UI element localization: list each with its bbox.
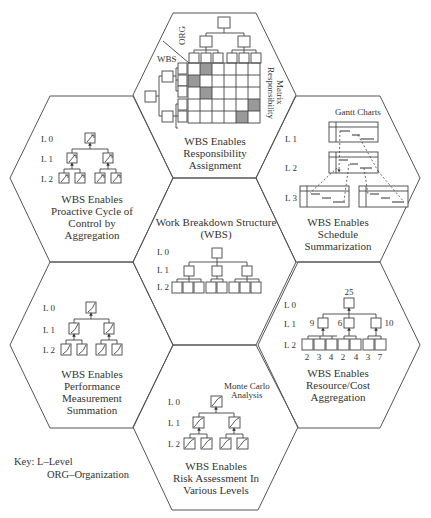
bottom-title-line-2: Risk Assessment In: [173, 472, 260, 484]
risk-tree: L 0 L 1 L 2: [168, 396, 248, 449]
responsibility-label: Responsibility: [266, 67, 276, 120]
level-label: L 1: [43, 325, 55, 335]
level-label: L 1: [284, 319, 296, 329]
level-label: L 0: [41, 134, 53, 144]
l1-value: 10: [385, 318, 395, 328]
left-bottom-title-line-2: Performance: [64, 380, 120, 392]
resource-cost-tree: L 0 L 1 L 2 25 9 6 10 2 3 4 2 4 3 7: [284, 287, 394, 362]
left-top-title-line-3: Control by: [68, 217, 116, 229]
matrix-grid: [188, 63, 260, 123]
right-top-title-line-3: Summarization: [304, 240, 372, 252]
bottom-title-line-1: WBS Enables: [185, 460, 246, 472]
level-label: L 0: [157, 247, 169, 257]
l2-value: 4: [329, 352, 334, 362]
key-organization: ORG–Organization: [14, 468, 129, 481]
right-bottom-title-line-1: WBS Enables: [307, 367, 368, 379]
performance-tree: L 0 L 1 L 2: [43, 302, 122, 355]
left-bottom-title-line-3: Measurement: [62, 392, 122, 404]
left-bottom-title-line-4: Summation: [67, 404, 118, 416]
top-title-line-2: Responsibility: [183, 147, 247, 159]
level-label: L 3: [285, 193, 297, 203]
right-top-title-line-2: Schedule: [318, 228, 358, 240]
level-label: L 1: [168, 418, 180, 428]
org-label: ORG: [177, 25, 187, 45]
level-label: L 0: [284, 300, 296, 310]
total-value: 25: [345, 287, 355, 297]
top-title-line-1: WBS Enables: [184, 135, 245, 147]
center-title-line-2: (WBS): [200, 228, 232, 241]
left-top-title-line-4: Aggregation: [65, 229, 120, 241]
right-bottom-title-line-3: Aggregation: [311, 391, 366, 403]
l1-value: 6: [338, 318, 343, 328]
key-level: Key: L–Level: [14, 455, 129, 468]
level-label: L 0: [168, 397, 180, 407]
right-top-title-line-1: WBS Enables: [307, 216, 368, 228]
gantt-charts-caption: Gantt Charts: [335, 107, 381, 117]
wbs-label: WBS: [157, 54, 177, 64]
right-bottom-title-line-2: Resource/Cost: [306, 379, 370, 391]
center-title-line-1: Work Breakdown Structure: [156, 216, 277, 228]
level-label: L 2: [285, 163, 297, 173]
wbs-hexagon-diagram: ORG WBS Responsibility Matrix WBS Enable…: [0, 0, 431, 518]
level-label: L 2: [168, 439, 180, 449]
level-label: L 1: [285, 134, 297, 144]
monte-carlo-caption-line-2: Analysis: [231, 390, 263, 400]
l2-value: 2: [305, 352, 310, 362]
l2-value: 3: [317, 352, 322, 362]
matrix-label: Matrix: [275, 80, 285, 105]
left-top-title-line-2: Proactive Cycle of: [51, 205, 133, 217]
legend-key: Key: L–Level ORG–Organization: [14, 455, 129, 481]
level-label: L 0: [43, 303, 55, 313]
wbs-tree: L 0 L 1 L 2: [157, 247, 261, 293]
left-bottom-title-line-1: WBS Enables: [61, 368, 122, 380]
l2-value: 3: [366, 352, 371, 362]
hex-center-outline: [133, 178, 296, 345]
level-label: L 1: [157, 265, 169, 275]
responsibility-matrix-diagram: ORG WBS Responsibility Matrix: [145, 17, 285, 128]
level-label: L 2: [284, 340, 296, 350]
org-root-box: [218, 17, 230, 28]
l2-value: 7: [378, 352, 383, 362]
l2-value: 4: [354, 352, 359, 362]
level-label: L 1: [41, 154, 53, 164]
cycle-icon: [59, 133, 121, 183]
level-label: L 2: [157, 282, 169, 292]
left-top-title-line-1: WBS Enables: [61, 193, 122, 205]
l2-value: 2: [341, 352, 346, 362]
gantt-charts-diagram: L 1 L 2 L 3: [285, 122, 408, 207]
top-title-line-3: Assignment: [189, 159, 242, 171]
level-label: L 2: [43, 345, 55, 355]
bottom-title-line-3: Various Levels: [183, 484, 249, 496]
level-label: L 2: [41, 174, 53, 184]
l1-value: 9: [310, 318, 315, 328]
control-cycle-tree: L 0 L 1 L 2: [41, 133, 121, 184]
